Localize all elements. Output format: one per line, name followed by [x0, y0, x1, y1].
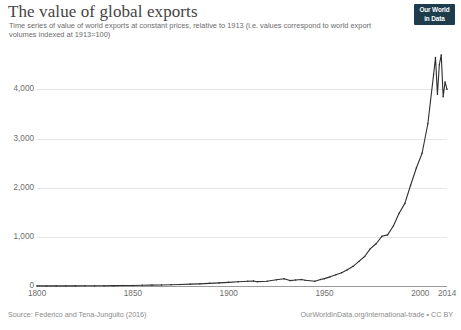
data-point[interactable]	[142, 285, 144, 287]
chart-container: The value of global exports Time series …	[0, 0, 461, 330]
data-point[interactable]	[439, 64, 441, 66]
data-point[interactable]	[75, 285, 77, 287]
data-point[interactable]	[381, 236, 383, 238]
data-point[interactable]	[370, 248, 372, 250]
data-point[interactable]	[433, 74, 435, 76]
data-point[interactable]	[347, 269, 349, 271]
logo-line-2: in Data	[424, 15, 445, 24]
data-point[interactable]	[387, 234, 389, 236]
chart-subtitle: Time series of value of world exports at…	[9, 21, 399, 39]
data-point[interactable]	[335, 274, 337, 276]
x-axis-tick-label: 1800	[28, 289, 46, 298]
data-point[interactable]	[304, 279, 306, 281]
y-axis-tick-label: 2,000	[0, 183, 34, 192]
data-point[interactable]	[444, 81, 446, 83]
data-point[interactable]	[295, 279, 297, 281]
data-point[interactable]	[65, 285, 67, 287]
data-point[interactable]	[122, 285, 124, 287]
data-point[interactable]	[170, 284, 172, 286]
data-point[interactable]	[404, 203, 406, 205]
data-point[interactable]	[103, 285, 105, 287]
data-point[interactable]	[427, 123, 429, 125]
series-layer	[37, 50, 447, 286]
data-point[interactable]	[352, 266, 354, 268]
data-point[interactable]	[94, 285, 96, 287]
data-point[interactable]	[180, 284, 182, 286]
data-point[interactable]	[375, 243, 377, 245]
data-point[interactable]	[36, 285, 38, 287]
data-point[interactable]	[329, 276, 331, 278]
data-point[interactable]	[132, 285, 134, 287]
y-axis-tick-label: 3,000	[0, 134, 34, 143]
data-point[interactable]	[416, 167, 418, 169]
data-point[interactable]	[218, 282, 220, 284]
data-point[interactable]	[442, 96, 444, 98]
y-axis-tick-label: 4,000	[0, 84, 34, 93]
data-point[interactable]	[253, 280, 255, 282]
data-point[interactable]	[410, 184, 412, 186]
data-point[interactable]	[446, 89, 448, 91]
data-point[interactable]	[237, 281, 239, 283]
data-point[interactable]	[301, 279, 303, 281]
data-point[interactable]	[289, 280, 291, 282]
data-point[interactable]	[320, 279, 322, 281]
data-point[interactable]	[314, 281, 316, 283]
credit-note[interactable]: OurWorldInData.org/international-trade •…	[300, 310, 453, 319]
data-point[interactable]	[441, 54, 443, 56]
data-line[interactable]	[37, 55, 447, 286]
data-point[interactable]	[190, 283, 192, 285]
data-point[interactable]	[199, 283, 201, 285]
our-world-in-data-logo[interactable]: Our World in Data	[414, 4, 455, 25]
data-point[interactable]	[324, 278, 326, 280]
x-axis-tick-label: 1950	[315, 289, 333, 298]
data-point[interactable]	[247, 281, 249, 283]
data-point[interactable]	[266, 281, 268, 283]
data-point[interactable]	[364, 256, 366, 258]
page-title: The value of global exports	[8, 2, 198, 22]
data-point[interactable]	[341, 272, 343, 274]
data-point[interactable]	[228, 282, 230, 284]
data-point[interactable]	[437, 94, 439, 96]
source-note: Source: Federico and Tena-Junguito (2016…	[8, 310, 147, 319]
data-point[interactable]	[393, 225, 395, 227]
x-axis-tick-label: 1900	[220, 289, 238, 298]
data-point[interactable]	[46, 285, 48, 287]
x-axis-tick-label: 1850	[124, 289, 142, 298]
x-axis-tick-label: 2000	[411, 289, 429, 298]
y-axis-tick-label: 1,000	[0, 232, 34, 241]
logo-line-1: Our World	[419, 6, 449, 15]
data-point[interactable]	[84, 285, 86, 287]
plot-area: 01,0002,0003,0004,0001800185019001950200…	[37, 50, 447, 286]
data-point[interactable]	[55, 285, 57, 287]
data-point[interactable]	[209, 283, 211, 285]
data-point[interactable]	[276, 279, 278, 281]
x-axis-tick-label: 2014	[438, 289, 456, 298]
data-point[interactable]	[283, 278, 285, 280]
data-point[interactable]	[113, 285, 115, 287]
data-point[interactable]	[151, 284, 153, 286]
data-point[interactable]	[398, 212, 400, 214]
data-point[interactable]	[421, 153, 423, 155]
data-point[interactable]	[161, 284, 163, 286]
data-point[interactable]	[435, 57, 437, 59]
data-point[interactable]	[257, 281, 259, 283]
data-point[interactable]	[358, 261, 360, 263]
